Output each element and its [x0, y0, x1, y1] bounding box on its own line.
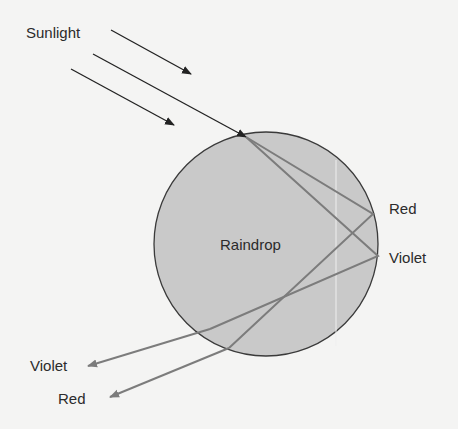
red-right-label: Red — [389, 200, 417, 217]
red-left-label: Red — [58, 390, 86, 407]
sunlight-label: Sunlight — [26, 24, 80, 41]
sunlight-rays — [71, 30, 246, 137]
violet-left-label: Violet — [30, 357, 67, 374]
raindrop-label: Raindrop — [220, 236, 281, 253]
violet-right-label: Violet — [389, 249, 426, 266]
